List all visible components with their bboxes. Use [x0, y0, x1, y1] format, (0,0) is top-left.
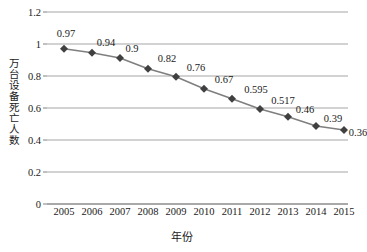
x-tick-label: 2010	[194, 206, 215, 217]
data-label: 0.39	[324, 113, 342, 124]
data-label: 0.595	[244, 84, 268, 95]
data-label: 0.36	[349, 127, 367, 138]
x-tick-label: 2009	[166, 206, 187, 217]
data-label: 0.46	[296, 104, 314, 115]
x-tick-label: 2015	[334, 206, 355, 217]
x-tick-label: 2011	[222, 206, 243, 217]
data-label: 0.94	[97, 37, 115, 48]
data-point-markers	[60, 45, 348, 134]
x-tick-label: 2012	[250, 206, 271, 217]
x-tick-label: 2007	[110, 206, 131, 217]
x-tick-label: 2006	[82, 206, 103, 217]
data-label: 0.76	[187, 62, 205, 73]
y-axis-tick-marks	[43, 12, 47, 204]
x-tick-label: 2013	[278, 206, 299, 217]
data-label: 0.517	[271, 95, 295, 106]
x-tick-label: 2005	[54, 206, 75, 217]
x-axis-title: 年份	[0, 228, 364, 244]
data-label: 0.97	[57, 28, 75, 39]
data-label: 0.82	[158, 53, 176, 64]
data-label: 0.67	[215, 74, 233, 85]
x-tick-label: 2008	[138, 206, 159, 217]
x-tick-label: 2014	[306, 206, 327, 217]
data-label: 0.9	[125, 43, 138, 54]
